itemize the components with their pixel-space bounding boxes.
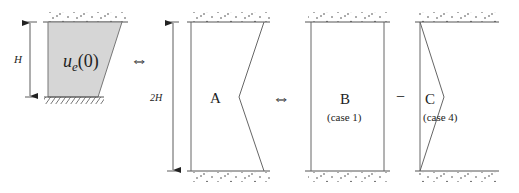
panel-c-case-4: C (case 4) bbox=[415, 12, 499, 182]
displacement-symbol: ue(0) bbox=[63, 51, 99, 74]
fixed-base-hatch bbox=[44, 97, 104, 104]
equivalence-symbol-1: ⇔ bbox=[130, 50, 148, 70]
panel-a-label: A bbox=[210, 90, 221, 106]
panel-b-case-1: B (case 1) bbox=[305, 12, 390, 182]
equivalence-symbol-2: ⇔ bbox=[272, 88, 290, 108]
dimension-label-h: H bbox=[13, 53, 23, 65]
panel-c-label: C bbox=[425, 91, 435, 107]
panel-original-wall: H ue(0) bbox=[13, 12, 128, 104]
wall-right-profile bbox=[239, 22, 264, 171]
panel-c-caption: (case 4) bbox=[423, 111, 458, 124]
soil-top bbox=[308, 12, 388, 22]
soil-bottom bbox=[418, 172, 498, 182]
dimension-label-2h: 2H bbox=[150, 92, 163, 103]
soil-bottom bbox=[190, 172, 270, 182]
panel-a: 2H A bbox=[150, 12, 270, 182]
soil-bottom bbox=[308, 172, 388, 182]
minus-operator: − bbox=[396, 88, 405, 105]
soil-top bbox=[190, 12, 270, 22]
soil-top bbox=[46, 12, 126, 22]
panel-b-label: B bbox=[340, 91, 350, 107]
superposition-diagram: H ue(0) ⇔ 2H A ⇔ B (case 1) − C bbox=[0, 0, 519, 193]
panel-b-caption: (case 1) bbox=[327, 111, 362, 124]
soil-top bbox=[418, 12, 498, 22]
